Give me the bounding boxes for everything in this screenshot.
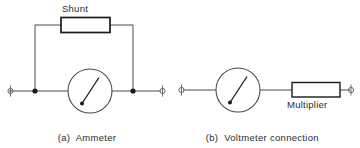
circuit-figure: Shunt Multiplier (a) Ammeter connection …	[0, 0, 360, 148]
multiplier-label: Multiplier	[287, 99, 328, 110]
ammeter-left-junction-dot	[32, 88, 37, 93]
ammeter-needle-pivot-dot	[80, 102, 84, 106]
shunt-label: Shunt	[62, 3, 88, 14]
multiplier-resistor-box	[292, 83, 340, 98]
ammeter-diagram-group	[8, 18, 165, 114]
caption-voltmeter-line1: Voltmeter connection	[224, 132, 319, 143]
ammeter-right-junction-dot	[130, 88, 135, 93]
caption-ammeter: (a) Ammeter connection	[46, 120, 116, 148]
caption-voltmeter-prefix: (b)	[206, 132, 219, 143]
shunt-resistor-box	[61, 18, 110, 33]
voltmeter-needle-pivot-dot	[228, 101, 232, 105]
caption-ammeter-prefix: (a)	[58, 132, 71, 143]
caption-voltmeter: (b) Voltmeter connection	[194, 120, 319, 148]
caption-ammeter-line1: Ammeter	[76, 132, 117, 143]
